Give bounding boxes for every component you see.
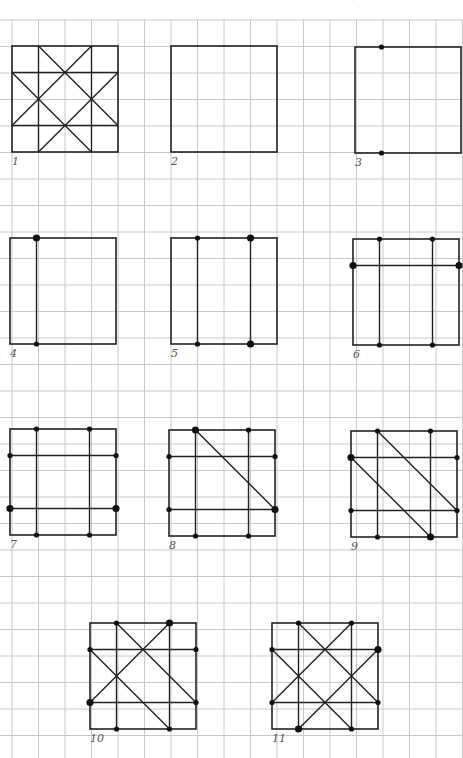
vertex-dot bbox=[167, 726, 172, 731]
vertex-dot bbox=[7, 453, 12, 458]
figure-label-4: 4 bbox=[10, 347, 17, 360]
vertex-dot bbox=[295, 725, 302, 732]
figure-line bbox=[299, 650, 379, 730]
vertex-dot bbox=[166, 507, 171, 512]
vertex-dot bbox=[375, 428, 380, 433]
vertex-dot bbox=[296, 620, 301, 625]
vertex-dot bbox=[192, 426, 199, 433]
vertex-dot bbox=[430, 342, 435, 347]
vertex-dot bbox=[6, 505, 13, 512]
vertex-dot bbox=[34, 426, 39, 431]
vertex-dot bbox=[195, 341, 200, 346]
vertex-dot bbox=[246, 533, 251, 538]
figure-label-9: 9 bbox=[351, 540, 358, 553]
vertex-dot bbox=[427, 533, 434, 540]
vertex-dot bbox=[114, 620, 119, 625]
vertex-dot bbox=[114, 726, 119, 731]
vertex-dot bbox=[349, 726, 354, 731]
vertex-dot bbox=[87, 426, 92, 431]
figure-label-8: 8 bbox=[169, 539, 176, 552]
figure-label-1: 1 bbox=[12, 155, 19, 168]
figure-label-2: 2 bbox=[171, 155, 178, 168]
vertex-dot bbox=[272, 454, 277, 459]
vertex-dot bbox=[375, 700, 380, 705]
figure-square-10 bbox=[90, 623, 196, 729]
figure-label-7: 7 bbox=[10, 538, 17, 551]
vertex-dot bbox=[374, 646, 381, 653]
figure-line bbox=[196, 430, 276, 510]
figure-square-4 bbox=[10, 238, 116, 344]
vertex-dot bbox=[87, 532, 92, 537]
vertex-dot bbox=[246, 427, 251, 432]
figure-line bbox=[299, 623, 379, 703]
vertex-dot bbox=[247, 340, 254, 347]
figure-line bbox=[39, 46, 119, 126]
figure-square-7 bbox=[10, 429, 116, 535]
vertex-dot bbox=[166, 454, 171, 459]
figure-line bbox=[272, 623, 352, 703]
figure-label-11: 11 bbox=[272, 732, 286, 745]
figure-square-6 bbox=[353, 239, 459, 345]
figure-line bbox=[272, 650, 352, 730]
vertex-dot bbox=[113, 453, 118, 458]
vertex-dot bbox=[430, 236, 435, 241]
figure-line bbox=[12, 73, 92, 153]
vertex-dot bbox=[455, 262, 462, 269]
vertex-dot bbox=[34, 532, 39, 537]
vertex-dot bbox=[193, 647, 198, 652]
vertex-dot bbox=[428, 428, 433, 433]
vertex-dot bbox=[379, 150, 384, 155]
vertex-dot bbox=[87, 647, 92, 652]
vertex-dot bbox=[377, 236, 382, 241]
vertex-dot bbox=[193, 533, 198, 538]
figure-line bbox=[12, 46, 92, 126]
figure-label-3: 3 bbox=[355, 156, 362, 169]
figure-line bbox=[39, 73, 119, 153]
vertex-dot bbox=[349, 262, 356, 269]
figure-label-6: 6 bbox=[353, 348, 360, 361]
vertex-dot bbox=[33, 234, 40, 241]
vertex-dot bbox=[377, 342, 382, 347]
vertex-dot bbox=[454, 508, 459, 513]
figure-square-11 bbox=[272, 623, 378, 729]
vertex-dot bbox=[375, 534, 380, 539]
figure-square-9 bbox=[351, 431, 457, 537]
vertex-dot bbox=[166, 619, 173, 626]
vertex-dot bbox=[379, 44, 384, 49]
figure-label-10: 10 bbox=[90, 732, 104, 745]
vertex-dot bbox=[86, 699, 93, 706]
figure-label-5: 5 bbox=[171, 347, 178, 360]
vertex-dot bbox=[34, 341, 39, 346]
vertex-dot bbox=[348, 508, 353, 513]
vertex-dot bbox=[271, 506, 278, 513]
vertex-dot bbox=[195, 235, 200, 240]
graph-paper-canvas: · · · · 1 2 3 4 5 6 7 8 9 10 11 bbox=[0, 0, 463, 758]
vertex-dot bbox=[112, 505, 119, 512]
vertex-dot bbox=[193, 700, 198, 705]
vertex-dot bbox=[454, 455, 459, 460]
vertex-dot bbox=[347, 454, 354, 461]
vertex-dot bbox=[269, 700, 274, 705]
vertex-dot bbox=[349, 620, 354, 625]
figure-line bbox=[90, 650, 170, 730]
vertex-dot bbox=[247, 234, 254, 241]
figure-line bbox=[117, 623, 197, 703]
figure-line bbox=[90, 623, 170, 703]
cropped-header-text: · · · · bbox=[318, 0, 356, 7]
figure-square-8 bbox=[169, 430, 275, 536]
grid-svg bbox=[0, 0, 463, 758]
vertex-dot bbox=[269, 647, 274, 652]
